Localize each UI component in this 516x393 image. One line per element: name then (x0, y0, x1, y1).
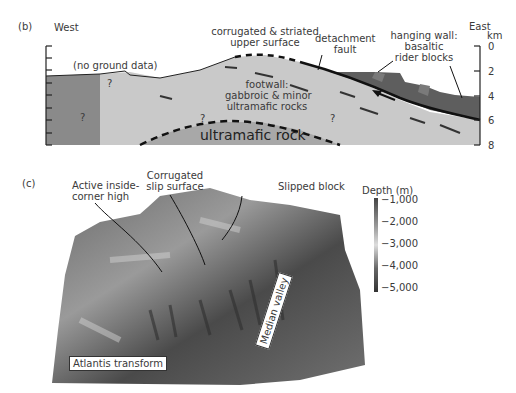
slipped-block-callout: Slipped block (278, 181, 345, 192)
colorbar-tick: −4,000 (381, 260, 418, 271)
colorbar-tick: −1,000 (381, 194, 418, 205)
colorbar-tick: −5,000 (381, 282, 418, 293)
corrugated-slip-callout: Corrugated slip surface (140, 170, 210, 192)
colorbar-tick: −3,000 (381, 238, 418, 249)
inside-corner-callout: Active inside- corner high (72, 180, 139, 202)
atlantis-transform-tag: Atlantis transform (69, 356, 167, 371)
panel-c-label: (c) (22, 178, 35, 189)
colorbar-tick: −2,000 (381, 216, 418, 227)
